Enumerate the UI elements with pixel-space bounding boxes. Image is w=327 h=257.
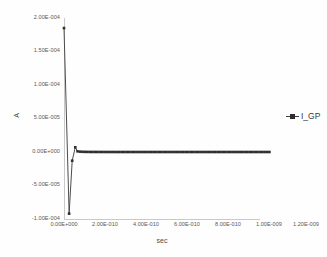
chart-root: 2.00E-004 1.50E-004 1.00E-004 5.00E-005 … bbox=[0, 0, 327, 257]
series-I_GP bbox=[0, 0, 327, 257]
legend: I_GP bbox=[286, 112, 320, 121]
legend-marker-icon bbox=[286, 113, 299, 120]
legend-label: I_GP bbox=[301, 112, 320, 121]
